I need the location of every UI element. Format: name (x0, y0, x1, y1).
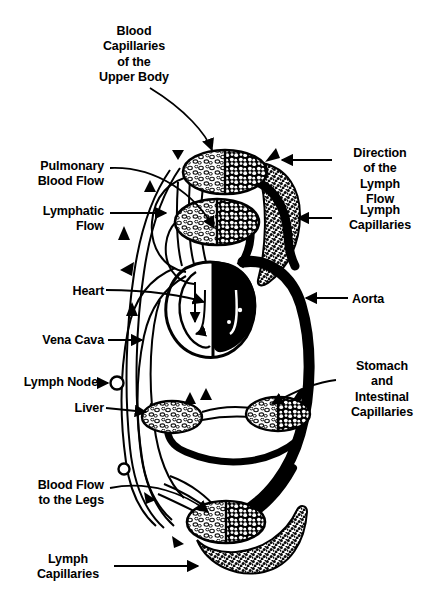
lymph-arrow-mid-left (118, 226, 130, 240)
label-lymph-node: Lymph Node (8, 375, 98, 390)
lymph-arrow-diag-left (120, 262, 134, 276)
label-lymphatic-flow: Lymphatic Flow (12, 204, 104, 235)
label-stomach-intestinal-capillaries: Stomach and Intestinal Capillaries (339, 359, 425, 420)
leader-liver (106, 408, 146, 412)
upper-body-capillaries (183, 150, 267, 194)
leader-blood-capillaries-upper-body (150, 88, 212, 150)
liver-organ (142, 401, 202, 433)
label-aorta: Aorta (352, 292, 422, 307)
liver-arrow-up (200, 388, 212, 400)
anatomy-diagram (0, 0, 427, 615)
label-vena-cava: Vena Cava (20, 333, 104, 348)
label-blood-flow-to-the-legs: Blood Flow to the Legs (12, 478, 104, 509)
lung-capillaries (175, 199, 259, 245)
lymph-node-upper (111, 377, 124, 390)
label-direction-of-lymph-flow: Direction of the Lymph Flow (336, 146, 424, 207)
leg-capillaries (187, 501, 265, 543)
label-lymph-capillaries-right: Lymph Capillaries (336, 203, 424, 234)
lymph-arrow-top-right (265, 148, 280, 162)
label-lymph-capillaries-bottom: Lymph Capillaries (26, 552, 110, 583)
lymph-arrow-upper-left (144, 180, 156, 192)
liver-arrow-up-2 (184, 392, 196, 404)
lymph-node-lower (119, 464, 130, 475)
label-heart: Heart (28, 284, 104, 299)
lymph-arrow-top (172, 150, 184, 160)
label-liver: Liver (28, 401, 104, 416)
label-blood-capillaries-upper-body: Blood Capillaries of the Upper Body (74, 24, 194, 85)
stomach-intestinal-capillaries-bed (246, 397, 310, 431)
diagram-page: Blood Capillaries of the Upper Body Dire… (0, 0, 427, 615)
label-pulmonary-blood-flow: Pulmonary Blood Flow (12, 159, 104, 190)
lymph-arrow-bottom (172, 536, 184, 548)
